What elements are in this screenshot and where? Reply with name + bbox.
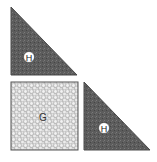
quilt-pieces-diagram: H G H	[0, 0, 157, 162]
square-piece: G	[11, 82, 78, 150]
right-triangle-piece: H	[84, 82, 150, 150]
piece-label-g: G	[39, 112, 47, 123]
piece-label-h: H	[101, 124, 108, 134]
piece-label-h: H	[26, 53, 33, 63]
top-triangle-piece: H	[11, 7, 77, 75]
